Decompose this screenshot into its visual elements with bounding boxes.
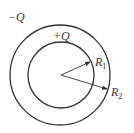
radius-r1-arrow bbox=[61, 62, 90, 75]
r2-label: R2 bbox=[110, 85, 122, 101]
outer-charge-label: −Q bbox=[8, 10, 25, 24]
inner-charge-label: +Q bbox=[53, 29, 70, 43]
r1-label: R1 bbox=[94, 55, 106, 71]
radius-r2-arrow bbox=[61, 75, 107, 89]
r1-subscript: 1 bbox=[102, 62, 106, 71]
shells-diagram: −Q +Q R1 R2 bbox=[0, 0, 134, 133]
r2-subscript: 2 bbox=[118, 92, 122, 101]
